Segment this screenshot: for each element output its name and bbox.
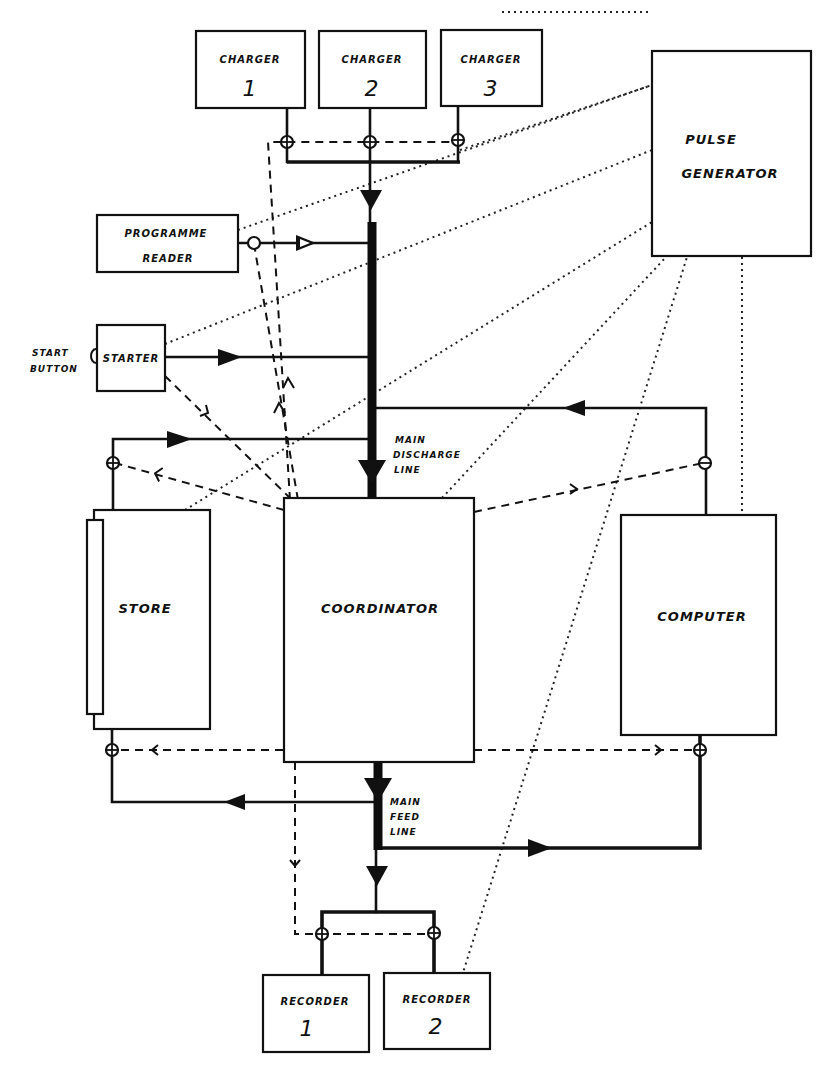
block-diagram: CHARGER 1 CHARGER 2 CHARGER 3 PULSE GENE… <box>0 0 829 1073</box>
arrow-down-icon <box>360 190 382 210</box>
pulse-generator-label-2: GENERATOR <box>681 166 778 181</box>
recorder-1-number: 1 <box>300 1016 315 1041</box>
gate-recorder2 <box>428 927 440 939</box>
arrow-right-icon <box>528 839 552 857</box>
store-block[interactable]: STORE <box>87 510 210 729</box>
control-to-store-top <box>115 463 284 510</box>
gate-programme-reader <box>248 237 260 249</box>
dashed-arrow-right-icon <box>570 484 577 494</box>
arrow-right-icon <box>167 431 192 448</box>
recorder-1-label: RECORDER <box>281 996 350 1007</box>
charger-1-label: CHARGER <box>220 54 281 65</box>
arrow-left-icon <box>563 400 585 416</box>
recorder-2-number: 2 <box>429 1014 444 1039</box>
programme-reader-label-2: READER <box>142 253 193 264</box>
coordinator-label: COORDINATOR <box>321 601 439 616</box>
pulse-to-coordinator <box>442 257 666 498</box>
gate-computer-bottom <box>694 744 706 756</box>
recorders-bus <box>322 912 434 975</box>
arrow-right-icon <box>218 349 242 366</box>
dashed-arrow-up-icon <box>283 378 294 388</box>
store-label: STORE <box>118 601 171 616</box>
control-to-programme-reader <box>254 244 298 500</box>
computer-block[interactable]: COMPUTER <box>621 515 776 735</box>
gate-charger1 <box>281 136 293 148</box>
gate-charger3 <box>452 134 464 146</box>
svg-text:MAIN: MAIN <box>395 435 426 445</box>
gate-store-top <box>107 457 119 469</box>
charger-2-label: CHARGER <box>342 54 403 65</box>
coordinator-block[interactable]: COORDINATOR <box>284 498 474 762</box>
charger-3-label: CHARGER <box>461 54 522 65</box>
arrow-down-icon <box>358 460 386 484</box>
charger-1-number: 1 <box>243 76 258 101</box>
charger-2-number: 2 <box>365 76 380 101</box>
svg-text:LINE: LINE <box>390 827 417 837</box>
starter-block[interactable]: STARTER <box>97 325 165 391</box>
start-button[interactable]: START BUTTON <box>30 348 96 374</box>
starter-label: STARTER <box>103 353 160 364</box>
main-feed-line-label: MAIN FEED LINE <box>390 797 421 837</box>
svg-text:FEED: FEED <box>390 812 420 822</box>
programme-reader-block[interactable]: PROGRAMME READER <box>97 215 238 272</box>
start-button-icon[interactable] <box>91 349 96 363</box>
svg-text:MAIN: MAIN <box>390 797 421 807</box>
main-discharge-line-label: MAIN DISCHARGE LINE <box>393 435 461 475</box>
programme-reader-label-1: PROGRAMME <box>125 228 208 239</box>
recorder-2-block[interactable]: RECORDER 2 <box>384 973 490 1049</box>
arrow-down-icon <box>364 778 392 802</box>
computer-label: COMPUTER <box>657 609 746 624</box>
start-button-label-1: START <box>32 348 69 358</box>
charger-2-block[interactable]: CHARGER 2 <box>319 31 426 108</box>
arrow-down-icon <box>366 866 388 886</box>
pulse-generator-label-1: PULSE <box>685 132 737 147</box>
svg-text:DISCHARGE: DISCHARGE <box>393 450 461 460</box>
charger-3-block[interactable]: CHARGER 3 <box>441 30 542 106</box>
charger-1-block[interactable]: CHARGER 1 <box>196 31 305 108</box>
gate-computer-top <box>699 457 711 469</box>
start-button-label-2: BUTTON <box>30 364 78 374</box>
gate-store-bottom <box>106 744 118 756</box>
gate-charger2 <box>364 136 376 148</box>
gate-recorder1 <box>316 928 328 940</box>
recorder-1-block[interactable]: RECORDER 1 <box>263 975 369 1052</box>
charger-3-number: 3 <box>484 76 499 101</box>
control-to-computer-top <box>474 463 703 512</box>
svg-text:LINE: LINE <box>394 465 421 475</box>
recorder-2-label: RECORDER <box>403 994 472 1005</box>
dashed-arrow-down-icon <box>200 405 208 416</box>
pulse-generator-block[interactable]: PULSE GENERATOR <box>652 51 811 256</box>
arrow-left-icon <box>224 794 245 810</box>
store-side-panel <box>87 520 103 714</box>
dashed-arrow-up-icon <box>274 403 285 413</box>
